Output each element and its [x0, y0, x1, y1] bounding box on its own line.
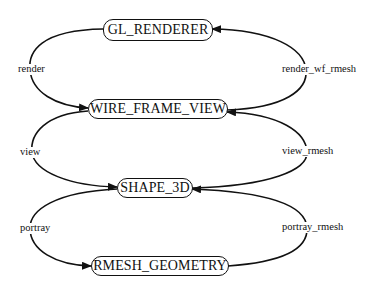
edge-label-render: render: [18, 64, 45, 75]
node-shape-3d: SHAPE_3D: [117, 178, 193, 198]
node-rmesh-geometry: RMESH_GEOMETRY: [91, 256, 229, 276]
node-gl-renderer: GL_RENDERER: [103, 19, 213, 41]
node-wire-frame-view: WIRE_FRAME_VIEW: [88, 99, 228, 119]
edge-label-portray: portray: [20, 223, 50, 234]
edge-label-render-wf-rmesh: render_wf_rmesh: [282, 64, 356, 75]
edge-label-portray-rmesh: portray_rmesh: [282, 222, 343, 233]
edge-view: [32, 111, 117, 187]
edge-label-view: view: [20, 147, 40, 158]
edge-label-view-rmesh: view_rmesh: [282, 146, 333, 157]
